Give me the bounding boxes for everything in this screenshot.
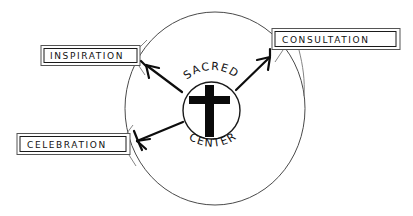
arrow-to-inspiration-tip: [141, 61, 146, 66]
christian-cross-icon: [189, 85, 230, 137]
arrow-to-consultation-shaft: [236, 57, 270, 90]
sacred-arc-text: SACRED: [181, 60, 242, 82]
arrow-to-inspiration-shaft: [146, 65, 182, 92]
node-consultation[interactable]: CONSULTATION: [272, 29, 400, 50]
cross-vertical-bar: [205, 85, 214, 137]
consultation-label: CONSULTATION: [282, 35, 370, 45]
diagram-canvas: INSPIRATION CONSULTATION CELEBRATION: [0, 0, 413, 216]
celebration-label: CELEBRATION: [27, 140, 107, 150]
leader-celebration-bottom: [129, 155, 136, 166]
leader-celebration-top: [127, 125, 133, 133]
node-celebration[interactable]: CELEBRATION: [17, 134, 130, 155]
inspiration-label: INSPIRATION: [50, 51, 124, 61]
node-inspiration[interactable]: INSPIRATION: [41, 46, 140, 66]
arrow-to-celebration: [134, 122, 183, 150]
arrow-to-celebration-shaft: [137, 122, 183, 141]
cross-horizontal-bar: [189, 96, 230, 104]
arrow-to-inspiration: [141, 61, 182, 92]
leader-consultation-bottom: [275, 50, 283, 62]
diagram-svg: INSPIRATION CONSULTATION CELEBRATION: [0, 0, 413, 216]
leader-inspiration-bottom: [139, 66, 145, 75]
